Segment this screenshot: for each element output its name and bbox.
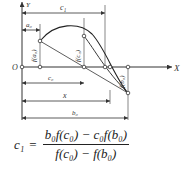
f-a0-label: f(a₀) (30, 49, 38, 62)
c0-label: c₀ (48, 74, 54, 82)
formula-lhs: c₁ (14, 137, 24, 153)
b0-label: b₀ (72, 109, 79, 117)
point-x-axis (108, 65, 112, 69)
regula-falsi-diagram: Y X O c₁ a₀ f(a₀) f(c₀) f(b₀) c₀ x (0, 0, 182, 125)
point-c0-axis (82, 65, 86, 69)
formula-numerator: b₀f(c₀) − c₀f(b₀) (43, 127, 129, 145)
point-b0-fb0 (126, 91, 130, 95)
f-b0-label: f(b₀) (118, 75, 126, 88)
point-c0-fc0 (82, 34, 86, 38)
regula-falsi-formula: c₁ = b₀f(c₀) − c₀f(b₀) f(c₀) − f(b₀) (14, 127, 129, 162)
x-label: x (62, 91, 67, 100)
y-axis-label: Y (26, 1, 31, 9)
point-origin (20, 65, 24, 69)
point-b0-axis (126, 65, 130, 69)
a0-label: a₀ (26, 21, 33, 29)
x-axis-label: X (173, 63, 180, 73)
point-c1-axis (103, 65, 107, 69)
f-c0-label: f(c₀) (74, 49, 82, 62)
point-a0-axis (38, 65, 42, 69)
points (20, 34, 130, 95)
formula-denominator: f(c₀) − f(b₀) (55, 145, 116, 162)
formula-equals: = (29, 137, 36, 153)
point-a0-fa0 (38, 39, 42, 43)
formula-fraction: b₀f(c₀) − c₀f(b₀) f(c₀) − f(b₀) (43, 127, 129, 162)
origin-label: O (12, 63, 18, 72)
c1-label: c₁ (60, 3, 67, 12)
